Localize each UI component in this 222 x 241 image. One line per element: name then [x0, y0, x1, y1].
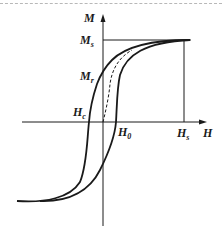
mr-label-sub: r — [91, 76, 94, 85]
m-axis-label: M — [84, 12, 95, 24]
mr-label-main: M — [80, 69, 91, 83]
h-axis-arrow — [199, 120, 207, 125]
m-axis-label-text: M — [84, 11, 95, 25]
ms-label-sub: s — [91, 40, 94, 49]
h0-label-main: H — [118, 125, 127, 139]
h-axis-label-text: H — [203, 126, 212, 140]
m-axis-arrow — [101, 14, 106, 22]
hs-label-main: H — [177, 126, 186, 140]
mr-label: Mr — [80, 70, 94, 85]
hc-label-sub: c — [82, 112, 86, 121]
hc-label-main: H — [73, 105, 82, 119]
hysteresis-lower-branch — [40, 40, 190, 201]
ms-label-main: M — [80, 33, 91, 47]
hs-label-sub: s — [186, 133, 189, 142]
h0-label: H0 — [118, 126, 131, 141]
hc-label: Hc — [73, 106, 86, 121]
ms-label: Ms — [80, 34, 94, 49]
h-axis-label: H — [203, 127, 212, 139]
h0-label-sub: 0 — [127, 132, 131, 141]
hysteresis-diagram — [0, 0, 222, 241]
hs-label: Hs — [177, 127, 189, 142]
